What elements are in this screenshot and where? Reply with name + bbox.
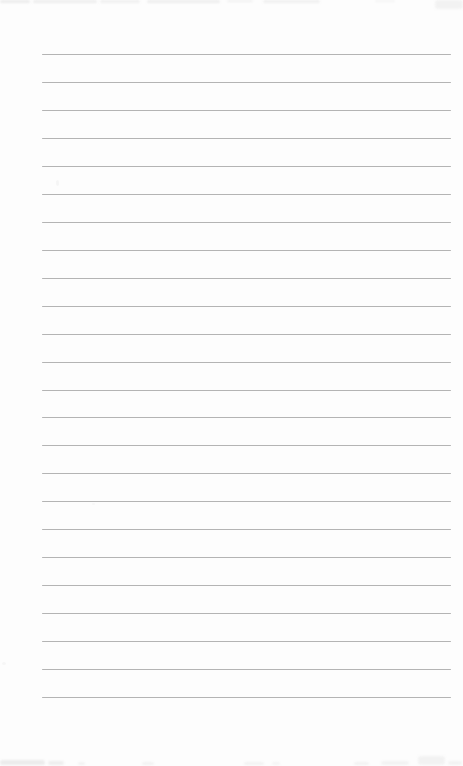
ruled-line-7 [42, 222, 451, 223]
scan-smudge-bottom [48, 761, 64, 765]
scan-smudge-top [147, 0, 220, 3]
scan-smudge-top [0, 0, 30, 3]
scan-smudge-bottom [0, 760, 45, 765]
scan-speck [56, 180, 59, 186]
ruled-line-6 [42, 194, 451, 195]
ruled-line-12 [42, 362, 451, 363]
scan-smudge-bottom [142, 762, 154, 765]
scan-speck [92, 503, 95, 505]
scan-smudge-top [375, 0, 395, 2]
scan-smudge-bottom [418, 756, 445, 765]
ruled-line-3 [42, 110, 451, 111]
ruled-line-18 [42, 529, 451, 530]
notebook-page [0, 0, 463, 766]
scan-smudge-bottom [381, 761, 409, 765]
scan-smudge-bottom [448, 761, 462, 765]
ruled-line-24 [42, 697, 451, 698]
ruled-line-23 [42, 669, 451, 670]
ruled-line-10 [42, 306, 451, 307]
ruled-line-4 [42, 138, 451, 139]
ruled-line-5 [42, 166, 451, 167]
scan-speck [2, 662, 6, 665]
ruled-line-1 [42, 54, 451, 55]
ruled-line-22 [42, 641, 451, 642]
ruled-line-9 [42, 278, 451, 279]
scan-smudge-bottom [272, 762, 280, 765]
scan-smudge-bottom [244, 762, 264, 765]
scan-smudge-bottom [78, 762, 85, 765]
ruled-line-14 [42, 417, 451, 418]
scan-smudge-bottom [354, 762, 369, 765]
ruled-line-15 [42, 445, 451, 446]
ruled-line-8 [42, 250, 451, 251]
scan-smudge-top [263, 0, 320, 3]
ruled-line-13 [42, 390, 451, 391]
ruled-line-19 [42, 557, 451, 558]
scan-smudge-top [33, 0, 97, 3]
ruled-line-11 [42, 334, 451, 335]
ruled-line-17 [42, 501, 451, 502]
ruled-line-16 [42, 473, 451, 474]
scan-smudge-top [100, 0, 140, 3]
ruled-line-21 [42, 613, 451, 614]
scan-smudge-top [435, 0, 463, 9]
ruled-line-2 [42, 82, 451, 83]
ruled-line-20 [42, 585, 451, 586]
scan-smudge-top [227, 0, 253, 2]
